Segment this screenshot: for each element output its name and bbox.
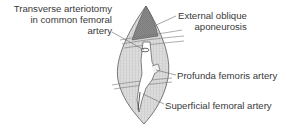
label-line: External oblique xyxy=(178,10,247,21)
label-profunda-femoris: Profunda femoris artery xyxy=(177,70,277,81)
label-line: in common femoral xyxy=(12,14,112,25)
label-line: Superficial femoral artery xyxy=(165,100,272,111)
label-line: Transverse arteriotomy xyxy=(12,3,112,14)
label-line: Profunda femoris artery xyxy=(177,70,277,81)
label-line: aponeurosis xyxy=(178,21,247,32)
label-external-oblique: External oblique aponeurosis xyxy=(178,10,247,32)
label-line: artery xyxy=(12,25,112,36)
label-transverse-arteriotomy: Transverse arteriotomy in common femoral… xyxy=(12,3,112,36)
leader-external xyxy=(154,16,176,26)
label-superficial-femoral: Superficial femoral artery xyxy=(165,100,272,111)
